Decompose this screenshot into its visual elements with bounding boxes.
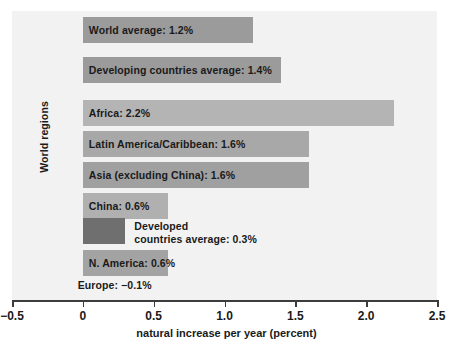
x-tick-label: 1.0 [216, 309, 233, 323]
bar-label: Asia (excluding China): 1.6% [89, 162, 235, 188]
x-tick-label: −0.5 [0, 309, 24, 323]
plot-area: World average: 1.2%Developing countries … [12, 11, 437, 300]
x-tick-label: 0.5 [145, 309, 162, 323]
x-tick [225, 300, 227, 307]
x-tick [83, 300, 85, 307]
x-tick-label: 2.0 [358, 309, 375, 323]
bar-label: Europe: −0.1% [78, 272, 152, 298]
bar-label: China: 0.6% [89, 193, 150, 219]
bar-label: Africa: 2.2% [89, 100, 150, 126]
bar-label: World average: 1.2% [89, 17, 193, 43]
bar-label: Latin America/Caribbean: 1.6% [89, 131, 246, 157]
bar-label: Developedcountries average: 0.3% [134, 218, 257, 246]
x-tick [154, 300, 156, 307]
x-tick-label: 2.5 [429, 309, 446, 323]
x-tick [437, 300, 439, 307]
x-tick [366, 300, 368, 307]
x-tick-label: 0 [79, 309, 86, 323]
bar-chart-figure: World regions World average: 1.2%Develop… [0, 0, 453, 344]
x-axis-title: natural increase per year (percent) [0, 327, 453, 339]
x-tick-label: 1.5 [287, 309, 304, 323]
bar-label: Developing countries average: 1.4% [89, 57, 272, 83]
x-tick [295, 300, 297, 307]
x-tick [12, 300, 14, 307]
bar[interactable] [83, 218, 126, 244]
